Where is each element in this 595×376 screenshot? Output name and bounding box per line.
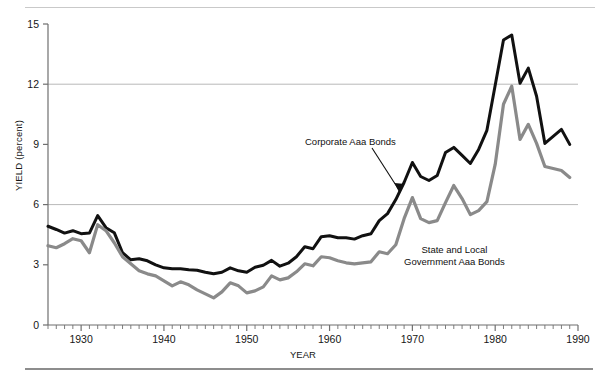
- bond-yield-chart-figure: 036912151930194019501960197019801990 YIE…: [0, 0, 595, 376]
- y-axis-title: YIELD (percent): [13, 116, 24, 196]
- annotation-muni-line2: Government Aaa Bonds: [404, 256, 505, 268]
- chart-plot-area: 036912151930194019501960197019801990: [0, 0, 595, 376]
- y-tick-label-0: 0: [33, 319, 39, 331]
- x-tick-label-1950: 1950: [235, 333, 259, 345]
- annotation-corporate-aaa-bonds: Corporate Aaa Bonds: [305, 136, 396, 148]
- y-tick-label-3: 3: [33, 258, 39, 270]
- y-tick-label-6: 6: [33, 198, 39, 210]
- y-tick-label-12: 12: [27, 78, 39, 90]
- annotation-muni-line1: State and Local: [404, 244, 505, 256]
- y-tick-label-9: 9: [33, 138, 39, 150]
- x-tick-label-1940: 1940: [152, 333, 176, 345]
- x-tick-label-1980: 1980: [484, 333, 508, 345]
- x-tick-label-1990: 1990: [566, 333, 590, 345]
- annotation-state-local-aaa-bonds: State and Local Government Aaa Bonds: [404, 244, 505, 268]
- x-axis-title: YEAR: [290, 349, 316, 360]
- series-line-corporate-aaa: [48, 35, 570, 274]
- x-tick-label-1960: 1960: [318, 333, 342, 345]
- x-tick-label-1930: 1930: [69, 333, 93, 345]
- x-tick-label-1970: 1970: [401, 333, 425, 345]
- y-tick-label-15: 15: [27, 18, 39, 30]
